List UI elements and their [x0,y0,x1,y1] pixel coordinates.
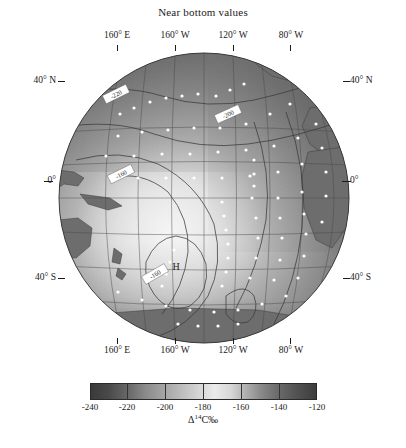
colorbar-tickmark-5 [279,383,280,400]
lat-tick-label-left-0: 40° N [0,75,56,85]
lat-tick-label-left-2: 40° S [0,272,56,282]
lon-tick-label-bottom-0: 160° E [87,345,147,355]
lon-tick-label-top-0: 160° E [87,30,147,40]
lon-tick-label-top-2: 120° W [203,30,263,40]
map-svg: -220 -200 -180 -160 [58,52,350,344]
lat-tickmark-right-0 [343,81,350,82]
colorbar-tickmark-3 [203,383,204,400]
lon-tick-label-bottom-3: 80° W [261,345,321,355]
figure-title: Near bottom values [0,6,406,18]
lat-tickmark-left-2 [58,278,65,279]
lon-tickmark-bottom-3 [290,338,291,344]
lon-tickmark-top-1 [175,45,176,51]
caption-strip-cut-off [0,436,406,448]
lat-tickmark-left-1 [44,181,53,182]
lon-tickmark-top-2 [233,45,234,51]
lat-tickmark-right-1 [342,181,351,182]
lon-tick-label-bottom-1: 160° W [145,345,205,355]
lon-tick-label-top-3: 80° W [261,30,321,40]
colorbar-tickmark-2 [165,383,166,400]
colorbar-tickmark-1 [127,383,128,400]
lon-tickmark-top-3 [290,45,291,51]
colorbar-axis-label: Δ14C‰ [0,413,406,425]
colorbar-label-tail: C‰ [201,414,218,425]
lon-tickmark-bottom-0 [117,338,118,344]
lon-tick-label-bottom-2: 120° W [203,345,263,355]
lat-tickmark-right-2 [343,278,350,279]
map-panel: -220 -200 -180 -160 [58,52,350,344]
lon-tickmark-bottom-2 [233,338,234,344]
lon-tickmark-top-0 [117,45,118,51]
high-pressure-marker: H [172,261,179,272]
colorbar-tick-label-6: -120 [294,402,340,412]
lat-tick-label-left-1: 0° [0,175,56,185]
lat-tickmark-left-0 [58,81,65,82]
colorbar [90,383,317,400]
lat-tick-label-right-2: 40° S [350,272,406,282]
lon-tick-label-top-1: 160° W [145,30,205,40]
figure-root: Near bottom values [0,0,406,448]
lat-tick-label-right-1: 0° [350,175,406,185]
colorbar-tickmark-4 [241,383,242,400]
lat-tick-label-right-0: 40° N [350,75,406,85]
lon-tickmark-bottom-1 [175,338,176,344]
